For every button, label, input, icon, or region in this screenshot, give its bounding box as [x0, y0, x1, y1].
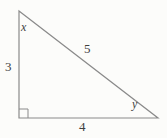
- side-label-left: 3: [5, 59, 12, 74]
- side-label-hypotenuse: 5: [84, 41, 91, 56]
- side-label-bottom: 4: [79, 119, 86, 134]
- angle-label-y: y: [131, 97, 138, 111]
- triangle-svg: x y 3 4 5: [0, 0, 167, 138]
- right-triangle-figure: x y 3 4 5: [0, 0, 167, 138]
- angle-label-x: x: [20, 20, 27, 34]
